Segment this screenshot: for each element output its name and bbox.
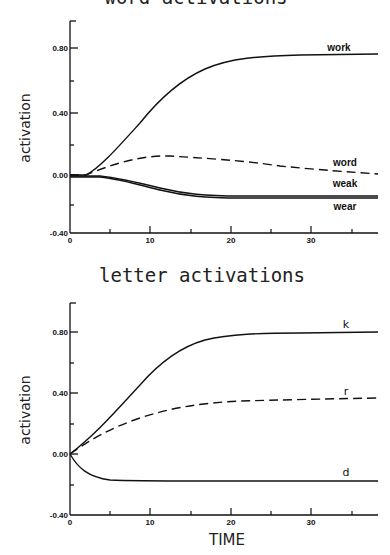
series-d <box>70 454 378 481</box>
chart-title: word activations <box>104 0 287 8</box>
word-activations-chart: word activations 0.80 0.40 0.00 -0.40 0 … <box>17 0 378 245</box>
y-tick-label: 0.00 <box>52 171 68 180</box>
y-tick-label: -0.40 <box>50 511 69 520</box>
series-label-work: work <box>326 42 351 53</box>
y-tick-label: -0.40 <box>50 229 69 238</box>
series-work <box>70 54 378 175</box>
y-tick-label: 0.00 <box>52 450 68 459</box>
x-tick-label: 20 <box>227 518 236 527</box>
y-axis-label: activation <box>17 375 33 444</box>
series-label-weak: weak <box>332 178 358 189</box>
y-tick-label: 0.40 <box>52 109 68 118</box>
series-label-r: r <box>344 385 349 398</box>
x-tick-label: 30 <box>307 236 316 245</box>
series-label-wear: wear <box>333 201 357 212</box>
y-axis-label: activation <box>17 93 33 162</box>
chart-title: letter activations <box>99 264 305 286</box>
y-tick-label: 0.80 <box>52 328 68 337</box>
y-tick-label: 0.80 <box>52 44 68 53</box>
series-label-d: d <box>343 466 350 479</box>
x-tick-label: 30 <box>307 518 316 527</box>
x-tick-label: 0 <box>68 236 73 245</box>
series-label-k: k <box>343 318 350 331</box>
x-tick-label: 20 <box>227 236 236 245</box>
letter-activations-chart: letter activations 0.80 0.40 0.00 -0.40 … <box>17 264 378 549</box>
x-tick-label: 10 <box>146 236 155 245</box>
figure: word activations 0.80 0.40 0.00 -0.40 0 … <box>0 0 390 555</box>
series-k <box>70 332 378 454</box>
y-tick-label: 0.40 <box>52 389 68 398</box>
series-word <box>70 156 378 175</box>
series-label-word: word <box>332 157 357 168</box>
series-r <box>70 398 378 454</box>
x-tick-label: 0 <box>68 518 73 527</box>
x-tick-label: 10 <box>146 518 155 527</box>
x-axis-label: TIME <box>208 531 245 549</box>
